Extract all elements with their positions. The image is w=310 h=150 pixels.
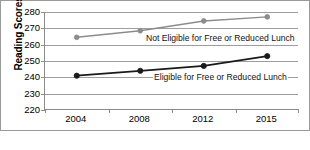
y-tick-label: 230 xyxy=(14,89,40,99)
x-tick-label: 2012 xyxy=(192,113,213,124)
data-point xyxy=(138,28,143,33)
y-tick-label: 220 xyxy=(14,105,40,115)
data-point xyxy=(265,54,270,59)
data-point xyxy=(201,19,206,24)
y-axis-tick-labels: 280 270 260 250 240 230 220 xyxy=(12,0,40,131)
series-plot xyxy=(45,12,299,110)
reading-scores-line-chart: Reading Scores 280 270 260 250 240 230 2… xyxy=(0,0,310,150)
x-tick-label: 2004 xyxy=(65,113,86,124)
x-tick-label: 2015 xyxy=(256,113,277,124)
x-tick-label: 2008 xyxy=(129,113,150,124)
data-point xyxy=(265,15,270,20)
data-point xyxy=(138,68,143,73)
y-tick-label: 250 xyxy=(14,56,40,66)
series-annotation-eligible: Eligible for Free or Reduced Lunch xyxy=(153,73,288,82)
data-point xyxy=(201,63,206,68)
series-annotation-not-eligible: Not Eligible for Free or Reduced Lunch xyxy=(145,34,296,43)
x-axis-tick-labels: 2004 2008 2012 2015 xyxy=(44,113,298,129)
y-tick-label: 240 xyxy=(14,73,40,83)
data-point xyxy=(74,73,79,78)
y-tick-label: 280 xyxy=(14,7,40,17)
data-point xyxy=(74,35,79,40)
plot-area: Not Eligible for Free or Reduced Lunch E… xyxy=(44,12,298,110)
y-tick-label: 270 xyxy=(14,24,40,34)
y-tick-label: 260 xyxy=(14,40,40,50)
